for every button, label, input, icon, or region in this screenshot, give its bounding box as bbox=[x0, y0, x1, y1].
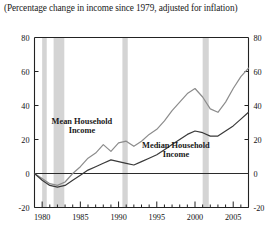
shaded-band-recession-2001 bbox=[203, 38, 209, 208]
y-label--20: -20 bbox=[19, 204, 30, 213]
y-label-right-20: 20 bbox=[254, 136, 262, 145]
x-label-2000: 2000 bbox=[187, 213, 203, 222]
y-label-40: 40 bbox=[21, 102, 29, 111]
series-annotations: Mean HouseholdIncomeMedian HouseholdInco… bbox=[52, 117, 211, 159]
median-label-line2: Income bbox=[163, 150, 190, 159]
x-label-1980: 1980 bbox=[34, 213, 50, 222]
line-chart-plot: 806040200-20 806040200-20 19801985199019… bbox=[0, 0, 277, 237]
x-axis-labels: 198019851990199520002005 bbox=[34, 213, 241, 222]
y-label-0: 0 bbox=[25, 170, 29, 179]
y-axis-labels-right: 806040200-20 bbox=[254, 34, 265, 213]
y-label-right--20: -20 bbox=[254, 204, 265, 213]
y-label-60: 60 bbox=[21, 68, 29, 77]
y-label-right-80: 80 bbox=[254, 34, 262, 43]
chart-container: (Percentage change in income since 1979,… bbox=[0, 0, 277, 237]
median-label-line1: Median Household bbox=[142, 141, 210, 150]
x-label-1990: 1990 bbox=[110, 213, 126, 222]
axis-ticks-group bbox=[35, 72, 249, 208]
x-label-1995: 1995 bbox=[149, 213, 165, 222]
shaded-band-recession-1990-91 bbox=[122, 38, 127, 208]
mean-label-line2: Income bbox=[69, 126, 96, 135]
y-label-right-0: 0 bbox=[254, 170, 258, 179]
y-label-20: 20 bbox=[21, 136, 29, 145]
mean-label-line1: Mean Household bbox=[52, 117, 113, 126]
y-label-right-60: 60 bbox=[254, 68, 262, 77]
series-line-mean-household-income bbox=[35, 68, 249, 185]
y-axis-labels-left: 806040200-20 bbox=[19, 34, 30, 213]
x-label-2005: 2005 bbox=[225, 213, 241, 222]
y-label-80: 80 bbox=[21, 34, 29, 43]
data-series-group bbox=[35, 68, 249, 187]
y-label-right-40: 40 bbox=[254, 102, 262, 111]
x-label-1985: 1985 bbox=[72, 213, 88, 222]
